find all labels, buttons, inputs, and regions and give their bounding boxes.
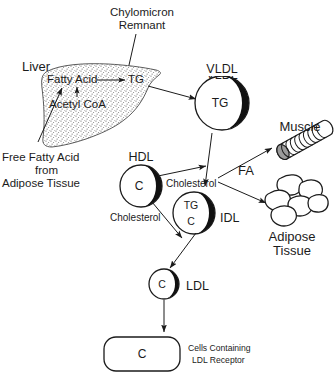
target-cell-label-line1: Cells Containing (188, 343, 251, 353)
adipose-cell-cluster (265, 175, 328, 226)
adipose-cell (308, 195, 328, 213)
hdl-particle-group: HDL C (120, 150, 162, 207)
vldl-core-label: TG (212, 96, 229, 110)
hdl-label: HDL (128, 150, 153, 164)
chylomicron-remnant-label-line1: Chylomicron (110, 6, 174, 18)
ldl-particle-group: C LDL (149, 269, 209, 299)
lipoprotein-metabolism-diagram: Chylomicron Remnant Liver Fatty Acid TG … (0, 0, 335, 374)
fatty-acid-label: Fatty Acid (47, 73, 98, 85)
idl-particle-group: TG C IDL (173, 192, 240, 234)
chylomicron-remnant-label-line2: Remnant (119, 19, 166, 31)
free-fatty-acid-source-group: Free Fatty Acid from Adipose Tissue (2, 151, 80, 189)
free-fatty-acid-label-line1: Free Fatty Acid (2, 151, 79, 163)
ldl-label: LDL (186, 279, 209, 293)
fa-label: FA (238, 163, 254, 178)
idl-core-label-bottom: C (187, 215, 195, 227)
arrow-fa-to-adipose (218, 182, 266, 203)
free-fatty-acid-label-line2: from (35, 164, 58, 176)
fa-branch-group: FA (218, 148, 272, 203)
acetyl-coa-label: Acetyl CoA (49, 98, 106, 110)
adipose-cell (271, 206, 296, 226)
arrow-liver-to-vldl (148, 86, 196, 99)
vldl-particle-group: VLDL TG (195, 68, 249, 130)
arrow-idl-to-ldl (170, 233, 196, 268)
muscle-label: Muscle (279, 119, 320, 134)
diagram-canvas: Chylomicron Remnant Liver Fatty Acid TG … (0, 0, 335, 374)
ldl-core-label: C (158, 278, 166, 290)
chylomicron-remnant-group: Chylomicron Remnant (110, 6, 174, 74)
hdl-core-label: C (135, 179, 144, 193)
idl-label: IDL (220, 211, 240, 225)
adipose-label-line2: Tissue (273, 243, 311, 258)
target-cell-label-line2: LDL Receptor (192, 355, 245, 365)
arrow-hdl-to-vldl-cholesterol (158, 166, 206, 176)
liver-group: Liver Fatty Acid TG Acetyl CoA (22, 59, 196, 147)
adipose-tissue-group: Adipose Tissue (265, 175, 328, 259)
adipose-label-line1: Adipose (269, 229, 316, 244)
free-fatty-acid-label-line3: Adipose Tissue (2, 177, 80, 189)
target-cell-core-label: C (138, 347, 147, 361)
muscle-group: Muscle (274, 118, 335, 162)
vldl-label-top: VLDL (206, 62, 237, 76)
cholesterol-upper-label: Cholesterol (166, 178, 217, 189)
tg-liver-label: TG (128, 73, 144, 85)
target-cell-group: C Cells Containing LDL Receptor (104, 337, 251, 371)
idl-core-label-top: TG (184, 199, 199, 211)
cholesterol-lower-label: Cholesterol (110, 212, 161, 223)
